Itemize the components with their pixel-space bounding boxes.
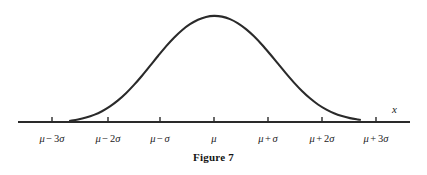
bell-curve-path xyxy=(70,16,360,121)
x-axis-tick-label: μ−σ xyxy=(150,134,170,145)
x-axis-tick-label: μ−2σ xyxy=(95,134,120,145)
x-axis-tick-label: μ+3σ xyxy=(363,134,388,145)
figure-container: x μ−3σμ−2σμ−σμμ+σμ+2σμ+3σ Figure 7 xyxy=(0,0,427,175)
x-axis-tick-label: μ−3σ xyxy=(39,134,64,145)
chart-plot-area xyxy=(18,16,410,122)
x-axis-tick-label: μ+σ xyxy=(258,134,278,145)
x-axis-label: x xyxy=(392,104,397,115)
x-axis-tick-label: μ+2σ xyxy=(309,134,334,145)
normal-distribution-chart xyxy=(0,0,427,175)
x-axis-tick-label: μ xyxy=(211,134,216,145)
figure-caption: Figure 7 xyxy=(0,152,427,163)
